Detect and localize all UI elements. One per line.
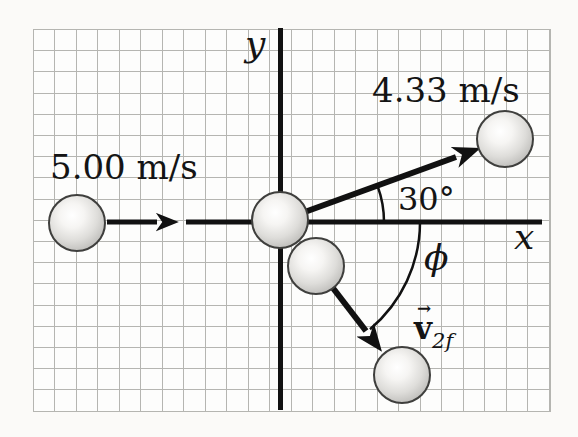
angle-30-label: 30° xyxy=(398,183,455,215)
y-axis-label: y xyxy=(245,26,265,62)
v2f-vector-label: →v2f xyxy=(414,303,453,352)
physics-diagram: y x 5.00 m/s 4.33 m/s 30° ϕ →v2f xyxy=(0,0,578,437)
ball-1-final xyxy=(476,110,534,168)
ball-1-initial xyxy=(48,194,106,252)
final-speed-ball1-label: 4.33 m/s xyxy=(372,73,520,107)
angle-phi-label: ϕ xyxy=(424,240,449,276)
ball-2-final xyxy=(373,346,431,404)
ball-2-contact xyxy=(287,237,345,295)
v2f-symbol: v xyxy=(414,310,432,346)
initial-speed-label: 5.00 m/s xyxy=(50,150,198,184)
angle-arc-phi xyxy=(370,222,420,329)
v2f-subscript: 2f xyxy=(432,329,453,353)
x-axis-label: x xyxy=(514,219,534,255)
angle-arc-30deg xyxy=(378,186,384,222)
